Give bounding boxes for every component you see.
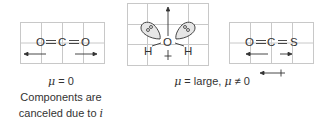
co2-caption: μ = 0 Components are canceled due to i (0, 74, 122, 120)
co2-caption-italic-i: i (100, 107, 104, 120)
co2-caption-line2: canceled due to i (0, 106, 122, 120)
polar-mid: = large, (181, 75, 224, 87)
ocs-bond-dipole-arrows (246, 52, 292, 55)
co2-caption-line2-text: canceled due to (19, 107, 100, 119)
co2-dipole-value: μ = 0 (0, 74, 122, 90)
ocs-atom-s: S (290, 35, 298, 49)
polar-mu2: μ (224, 75, 231, 88)
ocs-atom-c: C (267, 35, 275, 49)
co2-caption-line1: Components are (0, 90, 122, 106)
polar-suffix: ≠ 0 (232, 75, 250, 87)
polar-caption: μ = large, μ ≠ 0 (152, 74, 272, 89)
ocs-atom-o: O (245, 35, 254, 49)
